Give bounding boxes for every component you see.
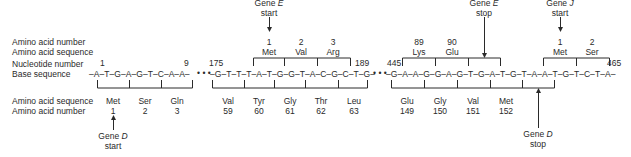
annotation-gene: J: [569, 0, 573, 8]
gene-d-aa-number: 151: [466, 106, 480, 116]
annotation-word: Gene: [546, 0, 567, 8]
gene-e-aa-number: 90: [447, 37, 456, 47]
gene-d-aa: Val: [222, 96, 234, 106]
annotation-event: stop: [476, 8, 492, 18]
annotation-event: stop: [530, 139, 546, 149]
gene-d-aa: Thr: [315, 96, 328, 106]
gene-e-aa: Val: [295, 47, 307, 57]
gene-d-aa-number: 61: [285, 106, 294, 116]
gene-d-aa-number: 59: [223, 106, 232, 116]
annotation-event: start: [261, 8, 278, 18]
gene-j-aa-number: 1: [558, 37, 563, 47]
gene-d-aa-number: 152: [499, 106, 513, 116]
gene-e-start-label: Gene E start: [255, 0, 284, 18]
gene-d-stop-label: Gene D stop: [523, 129, 552, 149]
gene-e-aa: Lys: [413, 47, 426, 57]
gene-d-aa-number: 3: [175, 106, 180, 116]
annotation-word: Gene: [523, 129, 544, 139]
gene-d-start-label: Gene D start: [98, 131, 127, 151]
gene-d-aa: Met: [106, 96, 120, 106]
annotation-word: Gene: [98, 131, 119, 141]
gene-d-aa-number: 2: [143, 106, 148, 116]
annotation-event: start: [552, 8, 569, 18]
gene-d-aa: Tyr: [253, 96, 265, 106]
gene-e-stop-label: Gene E stop: [470, 0, 499, 18]
gene-e-aa: Met: [262, 47, 276, 57]
annotation-word: Gene: [470, 0, 491, 8]
gene-d-aa-number: 1: [111, 106, 116, 116]
gene-d-aa-number: 60: [254, 106, 263, 116]
gene-j-bracket: [544, 58, 610, 66]
gene-j-start-label: Gene J start: [546, 0, 573, 18]
gene-e-aa-number: 3: [331, 37, 336, 47]
annotation-gene: E: [493, 0, 499, 8]
gene-d-aa: Val: [467, 96, 479, 106]
gene-e-aa-number: 1: [267, 37, 272, 47]
annotation-gene: D: [547, 129, 553, 139]
gene-d-aa: Gly: [284, 96, 297, 106]
gene-j-aa: Ser: [585, 47, 598, 57]
annotation-gene: E: [278, 0, 284, 8]
gene-d-aa: Met: [499, 96, 513, 106]
gene-d-aa: Gln: [170, 96, 183, 106]
gene-d-aa: Glu: [400, 96, 413, 106]
gene-e-bracket-3: [403, 58, 501, 66]
gene-d-aa-number: 62: [316, 106, 325, 116]
gene-d-bracket-2: [213, 80, 368, 88]
gene-d-aa-number: 63: [349, 106, 358, 116]
gene-d-aa: Leu: [347, 96, 361, 106]
gene-j-aa-number: 2: [590, 37, 595, 47]
gene-d-bracket-1: [98, 80, 193, 88]
gene-e-bracket-2: [254, 58, 351, 66]
gene-e-aa-number: 2: [299, 37, 304, 47]
annotation-gene: D: [122, 131, 128, 141]
gene-d-aa: Gly: [434, 96, 447, 106]
gene-j-aa: Met: [553, 47, 567, 57]
gene-e-aa-number: 89: [414, 37, 423, 47]
gene-e-aa: Glu: [445, 47, 458, 57]
annotation-word: Gene: [255, 0, 276, 8]
gene-d-aa-number: 150: [433, 106, 447, 116]
gene-d-aa-number: 149: [400, 106, 414, 116]
gene-d-aa: Ser: [138, 96, 151, 106]
annotation-event: start: [105, 141, 122, 151]
gene-e-aa: Arg: [326, 47, 339, 57]
gene-d-bracket-3: [392, 80, 555, 88]
